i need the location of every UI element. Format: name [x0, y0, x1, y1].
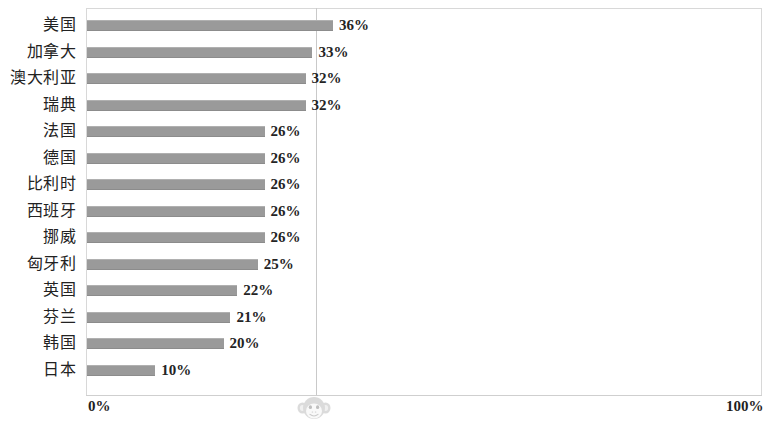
bar-row-label: 比利时 — [0, 171, 76, 197]
bar-row-value: 26% — [271, 171, 301, 197]
bar-row: 美国36% — [0, 12, 784, 38]
bar-row-label: 日本 — [0, 357, 76, 383]
bar-row-label: 韩国 — [0, 330, 76, 356]
bar-row-label: 法国 — [0, 118, 76, 144]
bar-row: 法国26% — [0, 118, 784, 144]
bar-row-value: 26% — [271, 224, 301, 250]
bar-row-bar — [87, 285, 237, 296]
bar-row-label: 挪威 — [0, 224, 76, 250]
bar-row: 日本10% — [0, 357, 784, 383]
bar-row: 西班牙26% — [0, 198, 784, 224]
x-axis-line — [86, 395, 762, 396]
bar-row-value: 32% — [312, 65, 342, 91]
bar-row: 加拿大33% — [0, 39, 784, 65]
bar-row: 英国22% — [0, 277, 784, 303]
bar-row-bar — [87, 232, 265, 243]
bar-row: 比利时26% — [0, 171, 784, 197]
bar-row-bar — [87, 126, 265, 137]
bar-row: 匈牙利25% — [0, 251, 784, 277]
bar-row-value: 26% — [271, 118, 301, 144]
bar-row: 韩国20% — [0, 330, 784, 356]
bar-row-value: 21% — [236, 304, 266, 330]
bar-row-bar — [87, 100, 306, 111]
x-axis-tick-max: 100% — [726, 398, 764, 415]
bar-row-bar — [87, 312, 230, 323]
bar-row-label: 德国 — [0, 145, 76, 171]
bar-row-bar — [87, 338, 224, 349]
bar-row-label: 英国 — [0, 277, 76, 303]
bar-row-label: 加拿大 — [0, 39, 76, 65]
bar-row-bar — [87, 179, 265, 190]
bar-row: 芬兰21% — [0, 304, 784, 330]
bar-row-bar — [87, 20, 333, 31]
bar-row-bar — [87, 153, 265, 164]
bar-row-label: 澳大利亚 — [0, 65, 76, 91]
bar-row-value: 36% — [339, 12, 369, 38]
monkey-face-icon — [297, 396, 331, 422]
bar-row-bar — [87, 206, 265, 217]
bar-row-label: 美国 — [0, 12, 76, 38]
bar-row-value: 10% — [161, 357, 191, 383]
bar-row-value: 26% — [271, 198, 301, 224]
bar-row-value: 32% — [312, 92, 342, 118]
bar-row-value: 22% — [243, 277, 273, 303]
bar-row-value: 26% — [271, 145, 301, 171]
bar-row-value: 25% — [264, 251, 294, 277]
bar-row-value: 33% — [318, 39, 348, 65]
bar-row: 挪威26% — [0, 224, 784, 250]
bar-row-bar — [87, 47, 312, 58]
bar-row: 德国26% — [0, 145, 784, 171]
bar-row-label: 芬兰 — [0, 304, 76, 330]
bar-row-value: 20% — [230, 330, 260, 356]
bar-chart: 美国36%加拿大33%澳大利亚32%瑞典32%法国26%德国26%比利时26%西… — [0, 0, 784, 424]
bar-row-label: 西班牙 — [0, 198, 76, 224]
bar-row-bar — [87, 365, 155, 376]
bar-row-label: 瑞典 — [0, 92, 76, 118]
bar-row-bar — [87, 259, 258, 270]
x-axis-tick-min: 0% — [88, 398, 111, 415]
bar-row-label: 匈牙利 — [0, 251, 76, 277]
bar-row: 澳大利亚32% — [0, 65, 784, 91]
bar-row-bar — [87, 73, 306, 84]
bar-row: 瑞典32% — [0, 92, 784, 118]
